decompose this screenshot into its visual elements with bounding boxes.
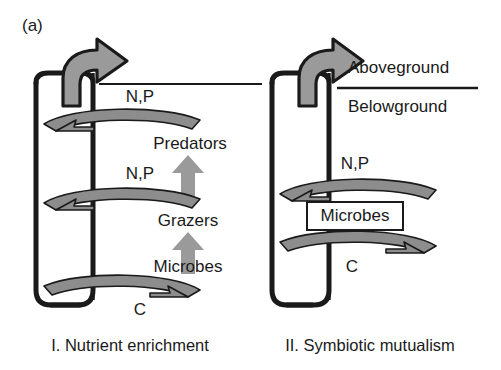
figure-root: (a) N,P Predators N,P Grazers <box>0 0 501 370</box>
microbes-box-label: Microbes <box>321 206 390 225</box>
loop-label-np-middle: N,P <box>126 164 154 183</box>
trophic-label-microbes: Microbes <box>154 257 223 276</box>
ecology-diagram: (a) N,P Predators N,P Grazers <box>0 0 501 370</box>
panel-caption-2: II. Symbiotic mutualism <box>285 336 455 354</box>
trophic-label-grazers: Grazers <box>158 211 218 230</box>
loop-label-np-panel-2: N,P <box>341 154 369 173</box>
stratum-label-aboveground: Aboveground <box>348 58 449 77</box>
stratum-label-belowground: Belowground <box>348 97 447 116</box>
panel-letter: (a) <box>22 16 43 35</box>
trophic-label-predators: Predators <box>153 134 227 153</box>
loop-label-np-upper: N,P <box>126 87 154 106</box>
panel-caption-1: I. Nutrient enrichment <box>51 336 209 354</box>
loop-label-c-lower: C <box>134 300 146 319</box>
loop-label-c-panel-2: C <box>346 257 358 276</box>
